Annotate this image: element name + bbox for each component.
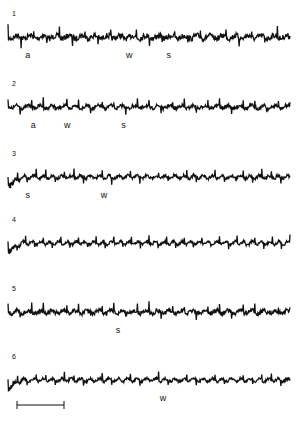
trace-label-3: 3 (12, 150, 16, 157)
trace-label-1: 1 (12, 10, 16, 17)
annotation-a-trace-1: a (25, 50, 30, 60)
trace-label-4: 4 (12, 216, 16, 223)
trace-label-6: 6 (12, 353, 16, 360)
annotation-w-trace-2: w (63, 120, 71, 130)
annotation-s-trace-5: s (116, 325, 121, 335)
trace-4 (8, 235, 290, 254)
trace-label-2: 2 (12, 80, 16, 87)
annotation-w-trace-6: w (159, 393, 167, 403)
trace-5 (8, 301, 290, 320)
trace-3 (8, 169, 290, 189)
trace-6 (8, 372, 290, 392)
annotation-s-trace-1: s (166, 50, 171, 60)
eeg-figure: 1aws2aws3sw45s6w (0, 0, 300, 421)
trace-2 (8, 97, 290, 114)
annotation-w-trace-3: w (100, 190, 108, 200)
trace-label-5: 5 (12, 285, 16, 292)
annotation-a-trace-2: a (31, 120, 36, 130)
annotation-w-trace-1: w (125, 50, 133, 60)
annotation-s-trace-2: s (121, 120, 126, 130)
trace-1 (8, 24, 290, 48)
annotation-s-trace-3: s (25, 190, 30, 200)
